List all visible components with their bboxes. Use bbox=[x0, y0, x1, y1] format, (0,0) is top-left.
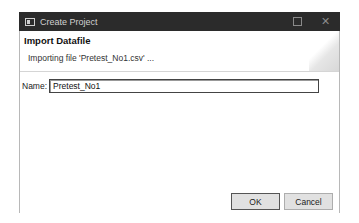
ok-button[interactable]: OK bbox=[231, 193, 280, 210]
maximize-icon bbox=[293, 17, 302, 26]
header-banner: Import Datafile Importing file 'Pretest_… bbox=[20, 31, 339, 72]
cancel-button[interactable]: Cancel bbox=[284, 193, 333, 210]
name-row: Name: bbox=[22, 79, 319, 93]
close-button[interactable]: ✕ bbox=[312, 12, 338, 31]
banner-graphic bbox=[309, 31, 339, 71]
close-icon: ✕ bbox=[321, 15, 330, 28]
name-label: Name: bbox=[22, 81, 47, 91]
app-window-icon bbox=[25, 18, 35, 26]
maximize-button[interactable] bbox=[284, 12, 310, 31]
title-bar[interactable]: Create Project ✕ bbox=[19, 12, 340, 31]
window-title: Create Project bbox=[40, 17, 98, 27]
create-project-dialog: Create Project ✕ Import Datafile Importi… bbox=[19, 12, 340, 213]
name-input[interactable] bbox=[49, 79, 319, 93]
banner-title: Import Datafile bbox=[24, 35, 91, 46]
banner-message: Importing file 'Pretest_No1.csv' ... bbox=[28, 53, 154, 63]
